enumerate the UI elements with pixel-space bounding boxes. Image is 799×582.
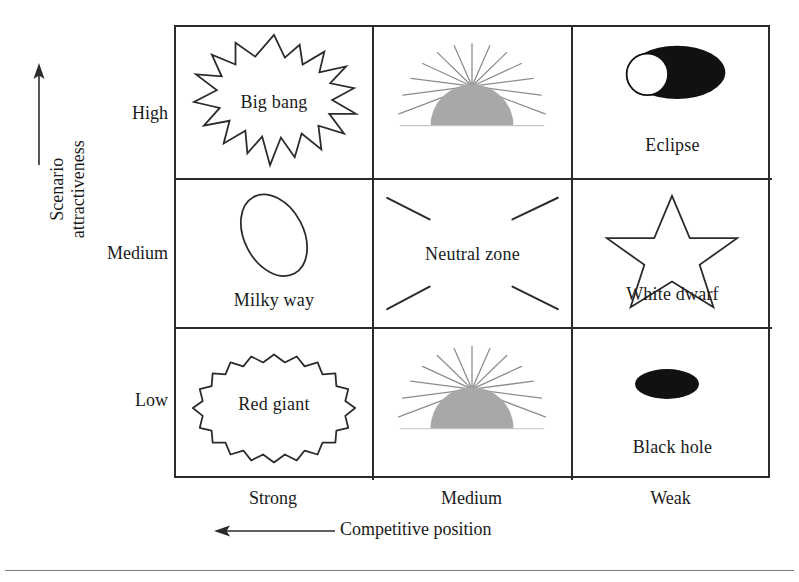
star-outline-icon (573, 180, 772, 327)
matrix-cell-high-strong[interactable]: Big bang (176, 27, 374, 180)
matrix-cell-high-medium[interactable] (374, 27, 573, 180)
matrix-cell-low-weak[interactable]: Black hole (573, 329, 772, 480)
eclipse-icon (573, 27, 772, 178)
x-axis-title: Competitive position (340, 519, 492, 540)
matrix-cell-high-weak[interactable]: Eclipse (573, 27, 772, 180)
column-label-weak: Weak (571, 488, 770, 509)
row-label-medium: Medium (0, 243, 168, 264)
column-label-medium: Medium (372, 488, 571, 509)
matrix-cell-low-strong[interactable]: Red giant (176, 329, 374, 480)
scenario-attractiveness-matrix: Scenario attractiveness High Medium Low … (0, 0, 799, 582)
matrix-grid: Big bang (174, 25, 770, 478)
matrix-cell-medium-weak[interactable]: White dwarf (573, 180, 772, 329)
matrix-cell-low-medium[interactable] (374, 329, 573, 480)
rising-sun-icon (374, 329, 571, 480)
column-label-strong: Strong (174, 488, 372, 509)
matrix-cell-medium-medium[interactable]: Neutral zone (374, 180, 573, 329)
bottom-divider (5, 570, 794, 571)
four-diagonal-rays-icon (374, 180, 571, 327)
y-axis-title: Scenario attractiveness (47, 59, 89, 319)
matrix-cell-medium-strong[interactable]: Milky way (176, 180, 374, 329)
row-label-low: Low (0, 390, 168, 411)
explosion-burst-icon (176, 27, 372, 178)
scalloped-ellipse-icon (176, 329, 372, 480)
left-arrow-icon (210, 518, 335, 544)
filled-ellipse-icon (573, 329, 772, 480)
tilted-ellipse-icon (176, 180, 372, 327)
row-label-high: High (0, 103, 168, 124)
rising-sun-icon (374, 27, 571, 178)
